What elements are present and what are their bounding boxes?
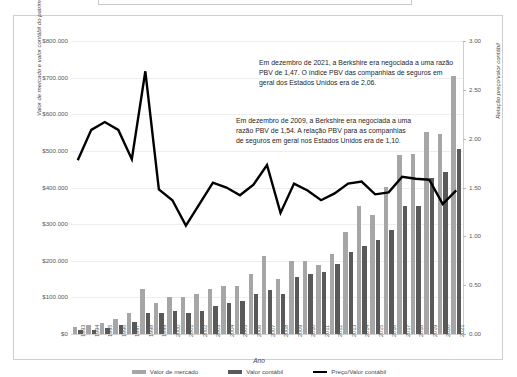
x-axis-tick-label: 2012	[337, 325, 343, 337]
legend-swatch	[313, 371, 327, 373]
legend-label: Valor de mercado	[150, 368, 198, 375]
legend-swatch	[228, 370, 242, 374]
legend-label: Preço/Valor contábil	[331, 368, 386, 375]
legend-swatch	[132, 370, 146, 374]
y-axis-left-tick-label: $500.000	[22, 147, 68, 154]
x-axis-tick-label: 2008	[283, 325, 289, 337]
x-axis-tick-label: 2021	[459, 325, 465, 337]
x-axis-tick-label: 2018	[418, 325, 424, 337]
top-cropped-box	[98, 0, 412, 5]
legend-item[interactable]: Valor contábil	[228, 368, 283, 375]
y-axis-right-tick-label: 1.50	[469, 184, 481, 191]
y-axis-right-tickmark	[463, 285, 466, 286]
x-axis-tick-label: 1999	[161, 325, 167, 337]
x-axis-tick-label: 2000	[175, 325, 181, 337]
x-axis-tick-label: 1994	[94, 325, 100, 337]
y-axis-right-tick-label: 0.00	[469, 330, 481, 337]
x-axis-tick-label: 2010	[310, 325, 316, 337]
x-axis-tick-label: 2009	[297, 325, 303, 337]
x-axis-tick-label: 1993	[80, 325, 86, 337]
legend-label: Valor contábil	[246, 368, 283, 375]
x-axis-tick-label: 2011	[324, 325, 330, 337]
x-axis-tick-label: 1997	[134, 325, 140, 337]
y-axis-left-tick-label: $0	[22, 330, 68, 337]
legend-item[interactable]: Preço/Valor contábil	[313, 368, 386, 375]
y-axis-right-tick-label: 1.00	[469, 232, 481, 239]
x-axis-title: Ano	[14, 357, 504, 364]
x-axis-tick-label: 2017	[405, 325, 411, 337]
y-axis-left-tick-label: $200.000	[22, 257, 68, 264]
chart-container: Valor de mercado e valor contábil do pat…	[13, 15, 503, 360]
chart-legend: Valor de mercadoValor contábilPreço/Valo…	[14, 368, 504, 375]
x-axis-tick-label: 1995	[107, 325, 113, 337]
y-axis-left-tick-label: $400.000	[22, 184, 68, 191]
y-axis-left-tick-label: $300.000	[22, 220, 68, 227]
x-axis-tick-label: 2001	[188, 325, 194, 337]
x-axis-tick-label: 2015	[378, 325, 384, 337]
x-axis-tick-label: 2013	[351, 325, 357, 337]
x-axis-tick-label: 1996	[121, 325, 127, 337]
x-axis-tick-label: 1998	[148, 325, 154, 337]
x-axis-tick-label: 2005	[242, 325, 248, 337]
legend-item[interactable]: Valor de mercado	[132, 368, 198, 375]
x-axis-tick-label: 2007	[270, 325, 276, 337]
y-axis-left-tick-label: $800.000	[22, 37, 68, 44]
x-axis-tick-label: 2016	[391, 325, 397, 337]
y-axis-right-tick-label: 2.00	[469, 135, 481, 142]
y-axis-right-tickmark	[463, 90, 466, 91]
y-axis-left-tick-label: $600.000	[22, 110, 68, 117]
y-axis-left-tick-label: $700.000	[22, 74, 68, 81]
y-axis-right-tickmark	[463, 188, 466, 189]
y-axis-right-tickmark	[463, 41, 466, 42]
y-axis-right-tick-label: 0.50	[469, 281, 481, 288]
x-axis-tick-label: 2004	[229, 325, 235, 337]
x-axis-tick-label: 2002	[202, 325, 208, 337]
y-axis-right-tickmark	[463, 236, 466, 237]
price-to-book-line	[78, 71, 456, 225]
y-axis-left-tick-label: $100.000	[22, 293, 68, 300]
y-axis-right-title: Relação preço/valor contábil	[495, 21, 501, 141]
annotation-2009: Em dezembro de 2009, a Berkshire era neg…	[236, 116, 412, 146]
y-axis-right-tick-label: 3.00	[469, 37, 481, 44]
y-axis-right-tick-label: 2.50	[469, 86, 481, 93]
annotation-2021: Em dezembro de 2021, a Berkshire era neg…	[259, 58, 455, 88]
y-axis-right-tickmark	[463, 139, 466, 140]
x-axis-tick-label: 2006	[256, 325, 262, 337]
y-axis-left-title: Valor de mercado e valor contábil do pat…	[36, 0, 42, 116]
x-axis-tick-label: 2019	[432, 325, 438, 337]
x-axis-tick-label: 2014	[364, 325, 370, 337]
x-axis-tick-label: 2020	[445, 325, 451, 337]
x-axis-tick-label: 2003	[215, 325, 221, 337]
